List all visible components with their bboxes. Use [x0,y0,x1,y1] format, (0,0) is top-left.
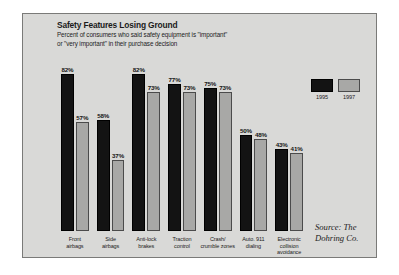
bar-group: 43%41%Electroniccollisionavoidance [275,59,303,231]
category-label: Electroniccollisionavoidance [266,236,312,256]
bar-1997 [183,92,196,232]
bar-1997 [76,122,89,231]
bar-value-label: 75% [204,80,216,87]
bar-1997 [290,153,303,231]
bar-group: 75%73%Crash/crumble zones [204,59,232,231]
bar-value-label: 73% [148,84,160,91]
bar-value-label: 50% [240,127,252,134]
bar-value-label: 73% [183,84,195,91]
legend-swatch-1997 [338,79,360,92]
bar-value-label: 77% [169,76,181,83]
bar-value-label: 37% [112,152,124,159]
bar-1997 [254,139,267,231]
bar-1995 [275,149,288,231]
bar-group: 50%48%Auto. 911dialing [240,59,268,231]
bar-value-label: 43% [276,141,288,148]
chart-subtitle-line-2: or "very important" in their purchase de… [57,40,337,49]
bar-1995 [97,120,110,231]
bar-1995 [61,74,74,231]
bar-group: 82%57%Frontairbags [61,59,89,231]
chart-legend: 1995 1997 [311,79,369,100]
bar-group: 82%73%Anti-lockbrakes [132,59,160,231]
source-note: Source: The Dohring Co. [315,222,377,243]
chart-figure: Safety Features Losing Ground Percent of… [22,13,377,258]
bar-value-label: 48% [255,131,267,138]
chart-header: Safety Features Losing Ground Percent of… [57,20,337,48]
bar-value-label: 41% [291,145,303,152]
legend-label-1995: 1995 [311,94,333,100]
legend-item-1997 [338,79,360,92]
source-line-1: Source: The [315,222,377,233]
bar-value-label: 82% [61,66,73,73]
bar-value-label: 73% [219,84,231,91]
chart-subtitle-line-1: Percent of consumers who said safety equ… [57,31,337,40]
bar-1997 [112,160,125,231]
bar-1997 [147,92,160,232]
source-line-2: Dohring Co. [315,233,377,244]
bar-value-label: 82% [133,66,145,73]
bar-1995 [132,74,145,231]
legend-label-1997: 1997 [338,94,360,100]
legend-item-1995 [311,79,333,92]
legend-swatch-1995 [311,79,333,92]
bar-1995 [204,88,217,231]
bar-1997 [219,92,232,232]
bar-group: 77%73%Tractioncontrol [168,59,196,231]
bar-plot-area: 82%57%Frontairbags58%37%Sideairbags82%73… [57,59,307,231]
bar-1995 [240,135,253,231]
chart-title: Safety Features Losing Ground [57,20,337,31]
bar-value-label: 57% [76,114,88,121]
bar-1995 [168,84,181,231]
bar-value-label: 58% [97,112,109,119]
bar-group: 58%37%Sideairbags [97,59,125,231]
